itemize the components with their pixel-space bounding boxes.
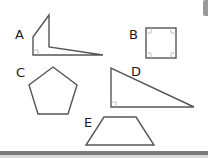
bottom-divider-shadow: [0, 155, 208, 158]
shapes-canvas: [0, 0, 208, 158]
right-angle-marker: [146, 28, 151, 33]
shapes-diagram: A B C D E: [0, 0, 208, 158]
shape-label-a: A: [15, 28, 24, 41]
right-angle-marker: [33, 50, 38, 55]
shape-d: [111, 68, 194, 107]
right-angle-marker: [171, 28, 176, 33]
right-angle-marker: [111, 102, 116, 107]
right-angle-marker: [171, 53, 176, 58]
scroll-tab: [203, 0, 208, 16]
shape-a: [33, 15, 103, 55]
shape-e: [86, 117, 154, 145]
shape-label-b: B: [129, 28, 138, 41]
shape-b: [146, 28, 176, 58]
right-angle-marker: [146, 53, 151, 58]
shape-label-d: D: [131, 65, 141, 78]
shape-label-e: E: [84, 116, 92, 129]
shape-c: [29, 67, 77, 114]
shape-label-c: C: [16, 66, 25, 79]
